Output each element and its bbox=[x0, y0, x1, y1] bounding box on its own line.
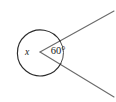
geometry-figure: x 60° bbox=[0, 0, 116, 102]
known-angle-label: 60° bbox=[51, 45, 66, 56]
angle-diagram-canvas: x 60° bbox=[0, 0, 116, 102]
reflex-angle-label: x bbox=[24, 47, 30, 57]
lower-ray-line bbox=[40, 52, 114, 97]
